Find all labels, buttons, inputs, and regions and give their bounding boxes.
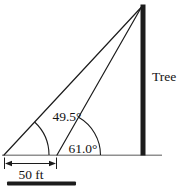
sight-line-near (57, 7, 142, 155)
bottom-bar (7, 182, 76, 186)
baseline-distance-label: 50 ft (18, 167, 43, 182)
angle-far-label: 49.5° (52, 109, 81, 124)
tree-angle-diagram: 49.5° 61.0° Tree 50 ft (0, 0, 182, 188)
dimension-arrowhead-left-icon (5, 161, 12, 166)
angle-arc-far (35, 122, 49, 155)
sight-line-far (4, 7, 142, 155)
dimension-arrowhead-right-icon (49, 161, 56, 166)
diagram-canvas: 49.5° 61.0° Tree 50 ft (0, 0, 182, 188)
tree-label: Tree (152, 69, 176, 84)
angle-near-label: 61.0° (68, 141, 97, 156)
